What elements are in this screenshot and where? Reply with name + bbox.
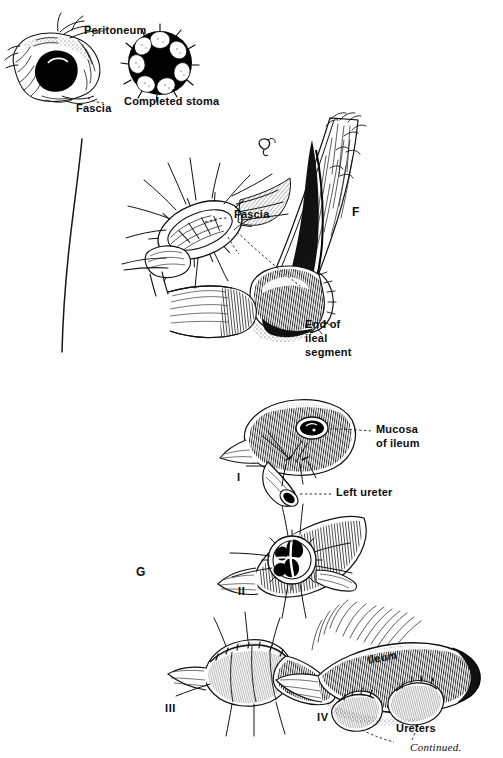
panel-key-g: G bbox=[136, 566, 146, 579]
label-end-of-ileal-segment-3: segment bbox=[305, 347, 352, 359]
label-end-of-ileal-segment-1: End of bbox=[305, 319, 340, 331]
label-end-of-ileal-segment-2: ileal bbox=[305, 333, 327, 345]
panel-key-f: F bbox=[352, 206, 360, 219]
step-numeral-i: I bbox=[237, 472, 241, 484]
ileal-loop-left bbox=[168, 286, 256, 338]
label-peritoneum: Peritoneum bbox=[84, 25, 147, 37]
label-completed-stoma: Completed stoma bbox=[124, 96, 219, 108]
label-left-ureter: Left ureter bbox=[336, 487, 393, 499]
label-fascia-top: Fascia bbox=[76, 103, 111, 115]
label-ureters: Ureters bbox=[396, 723, 436, 735]
plate-continuation-caption: Continued. bbox=[410, 742, 462, 754]
step-numeral-iv: IV bbox=[317, 712, 329, 724]
label-fascia-f: Fascia bbox=[234, 209, 269, 221]
label-mucosa-1: Mucosa bbox=[376, 424, 418, 436]
step-numeral-ii: II bbox=[238, 586, 245, 598]
step-numeral-iii: III bbox=[165, 703, 176, 715]
label-mucosa-2: of ileum bbox=[376, 438, 420, 450]
